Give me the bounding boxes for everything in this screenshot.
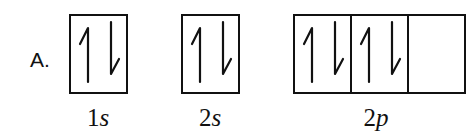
electron-pair-icon: [295, 16, 350, 92]
electron-pair-icon: [71, 16, 126, 92]
spin-up-arrow-icon: [361, 28, 369, 82]
spin-up-arrow-icon: [80, 28, 88, 82]
spin-down-arrow-icon: [392, 22, 400, 74]
spin-down-arrow-icon: [223, 22, 231, 74]
orbital-group-2p: [293, 14, 466, 92]
spin-down-arrow-icon: [111, 22, 119, 74]
orbital-box: [350, 14, 409, 94]
orbital-box-empty: [407, 14, 466, 94]
option-label: A.: [30, 48, 50, 72]
spin-up-arrow-icon: [304, 28, 312, 82]
electron-pair-icon: [352, 16, 407, 92]
spin-up-arrow-icon: [192, 28, 200, 82]
orbital-box: [181, 14, 240, 94]
sublevel-label-1s: 1s: [68, 104, 128, 132]
orbital-box: [293, 14, 352, 94]
sublevel-label-2p: 2p: [346, 104, 406, 132]
sublevel-label-2s: 2s: [180, 104, 240, 132]
spin-down-arrow-icon: [335, 22, 343, 74]
orbital-group-1s: [69, 14, 128, 92]
electron-pair-icon: [183, 16, 238, 92]
orbital-group-2s: [181, 14, 240, 92]
orbital-box: [69, 14, 128, 94]
